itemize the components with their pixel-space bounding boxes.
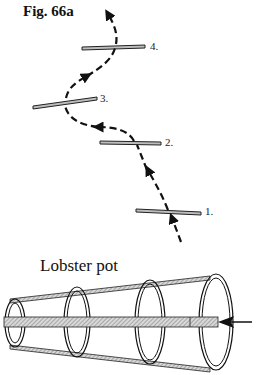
entry-arrow-icon bbox=[218, 316, 252, 328]
pot-bottom-edge bbox=[10, 345, 210, 372]
lobster-pot-diagram bbox=[0, 0, 258, 375]
pot-top-edge bbox=[10, 276, 210, 303]
pot-rod bbox=[4, 317, 218, 327]
